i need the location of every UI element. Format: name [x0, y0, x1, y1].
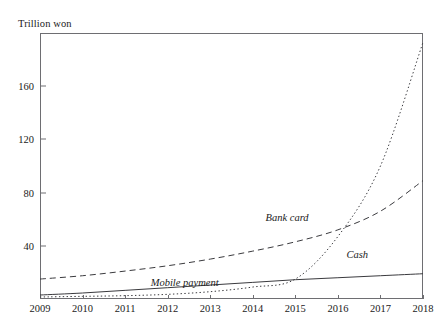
x-tick-label: 2011	[105, 303, 145, 314]
y-tick-label: 80	[4, 187, 34, 198]
series-line-bank-card	[40, 181, 423, 279]
y-tick-label: 120	[4, 134, 34, 145]
x-tick-label: 2012	[148, 303, 188, 314]
x-tick-mark	[423, 295, 424, 299]
x-tick-label: 2010	[63, 303, 103, 314]
series-label-mobile-payment: Mobile payment	[151, 277, 219, 288]
x-tick-label: 2017	[360, 303, 400, 314]
x-tick-label: 2015	[275, 303, 315, 314]
series-label-bank-card: Bank card	[266, 212, 309, 223]
series-label-cash: Cash	[346, 249, 368, 260]
x-tick-label: 2013	[190, 303, 230, 314]
y-axis-title: Trillion won	[18, 18, 72, 29]
x-tick-label: 2016	[318, 303, 358, 314]
chart-container: Trillion won 4080120160 2009201020112012…	[0, 0, 442, 331]
y-tick-label: 40	[4, 240, 34, 251]
x-tick-label: 2014	[233, 303, 273, 314]
x-tick-label: 2009	[20, 303, 60, 314]
series-line-cash	[40, 274, 423, 295]
y-tick-label: 160	[4, 81, 34, 92]
x-tick-label: 2018	[403, 303, 442, 314]
